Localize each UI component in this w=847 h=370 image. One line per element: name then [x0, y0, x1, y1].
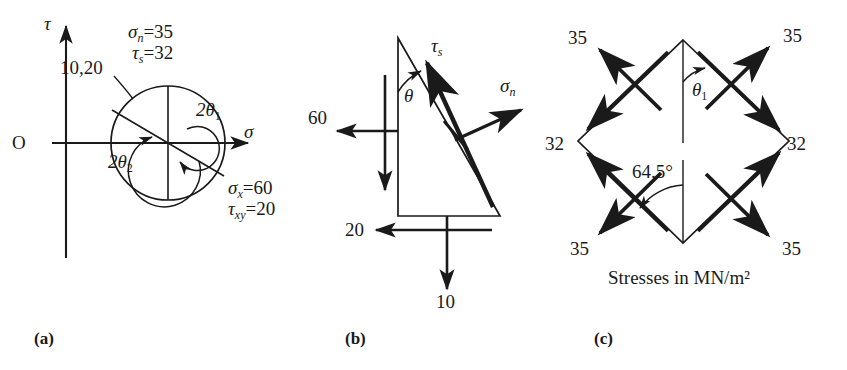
origin-label: O — [12, 133, 26, 152]
angle-2theta1-subscript: 1 — [215, 109, 221, 123]
sigma-x-equals-value: =60 — [243, 177, 273, 198]
panel-c-group — [578, 40, 789, 243]
figure-root: τ σ O 10,20 σn=35 τs=32 σx=60 τxy=20 2θ1… — [0, 0, 847, 370]
figure-vector-layer — [0, 0, 847, 370]
units-caption-text: Stresses in MN/m² — [608, 267, 750, 288]
stress-10-label: 10 — [436, 292, 455, 311]
label-32-left: 32 — [545, 134, 564, 153]
panel-tag-b: (b) — [345, 330, 366, 347]
angle-theta1-subscript: 1 — [701, 89, 707, 103]
tau-s-equals-value: =32 — [143, 42, 173, 63]
sigma-n-value-label: σn=35 — [128, 22, 173, 44]
tau-xy-symbol: τ — [228, 198, 235, 219]
panel-tag-c: (c) — [594, 330, 613, 347]
leader-10-20 — [114, 76, 133, 99]
sigma-n-arrow-subscript: n — [509, 85, 515, 99]
sigma-n-equals-value: =35 — [143, 21, 173, 42]
tau-s-value-label: τs=32 — [132, 43, 173, 65]
tau-s-symbol: τ — [132, 42, 139, 63]
angle-theta1-label: θ1 — [692, 80, 707, 102]
label-35-top-left: 35 — [568, 28, 587, 47]
stress-20-label: 20 — [345, 220, 364, 239]
sigma-x-value-label: σx=60 — [228, 178, 272, 200]
sigma-axis-label: σ — [244, 122, 253, 141]
sigma-x-symbol: σ — [228, 177, 237, 198]
angle-2theta1-arc — [128, 137, 200, 207]
angle-2theta2-label: 2θ2 — [108, 152, 133, 174]
tau-xy-subscript: xy — [235, 208, 246, 222]
angle-2theta1-label: 2θ1 — [196, 100, 221, 122]
angle-2theta1-symbol: 2θ — [196, 99, 215, 120]
point-10-20-label: 10,20 — [60, 58, 103, 77]
sigma-n-arrow — [455, 110, 521, 140]
panel-b-group — [337, 38, 521, 289]
stress-60-label: 60 — [308, 108, 327, 127]
angle-2theta2-symbol: 2θ — [108, 151, 127, 172]
angle-theta1-symbol: θ — [692, 79, 701, 100]
tau-xy-equals-value: =20 — [245, 198, 275, 219]
label-35-bottom-right: 35 — [782, 239, 801, 258]
tau-s-arrow-subscript: s — [438, 45, 443, 59]
angle-2theta2-subscript: 2 — [127, 161, 133, 175]
angle-64-5-label: 64.5° — [632, 162, 673, 181]
sigma-n-arrow-label: σn — [500, 76, 515, 98]
units-caption: Stresses in MN/m² — [608, 268, 750, 287]
sigma-n-symbol: σ — [128, 21, 137, 42]
sigma-n-arrow-symbol: σ — [500, 75, 509, 96]
label-35-bottom-left: 35 — [570, 239, 589, 258]
tau-axis-label: τ — [44, 14, 51, 33]
label-32-right: 32 — [787, 134, 806, 153]
label-35-top-right: 35 — [783, 26, 802, 45]
tau-s-arrow-symbol: τ — [431, 35, 438, 56]
tau-s-arrow-label: τs — [431, 36, 442, 58]
angle-theta-label: θ — [404, 86, 413, 105]
tau-xy-value-label: τxy=20 — [228, 199, 275, 221]
panel-tag-a: (a) — [34, 330, 54, 347]
